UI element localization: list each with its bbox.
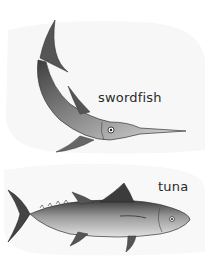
swordfish-label: swordfish: [98, 90, 162, 105]
tuna-label: tuna: [158, 179, 188, 194]
fish-illustration: swordfish tuna: [0, 0, 207, 259]
tuna-illustration: [0, 0, 207, 259]
